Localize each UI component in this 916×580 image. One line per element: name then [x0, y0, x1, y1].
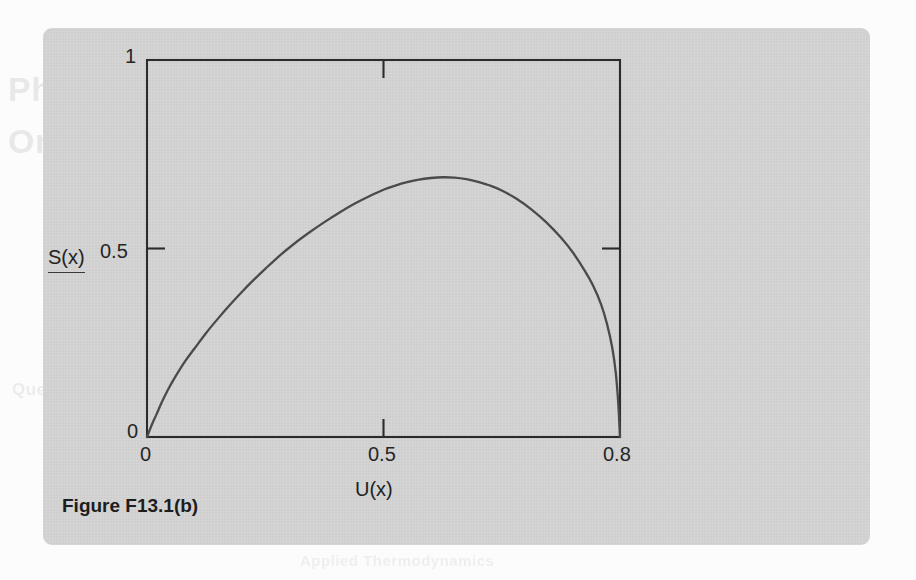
plot-frame: [147, 60, 620, 437]
figure-caption: Figure F13.1(b): [62, 495, 198, 517]
y-tick-label-0: 0: [127, 420, 138, 443]
x-tick-label-0point5: 0.5: [368, 443, 396, 466]
y-axis-title-text: S(x): [48, 246, 85, 273]
scanned-page: Phase diagrams One-component systems Que…: [0, 0, 916, 580]
x-tick-label-0point8: 0.8: [603, 443, 631, 466]
y-tick-label-0point5: 0.5: [100, 240, 128, 263]
y-tick-label-1: 1: [125, 45, 136, 68]
x-axis-title: U(x): [355, 478, 393, 501]
x-tick-label-0: 0: [140, 443, 151, 466]
chart-plot: [0, 0, 916, 580]
data-curve-s-of-u: [147, 177, 620, 437]
y-axis-title: S(x): [48, 246, 85, 273]
